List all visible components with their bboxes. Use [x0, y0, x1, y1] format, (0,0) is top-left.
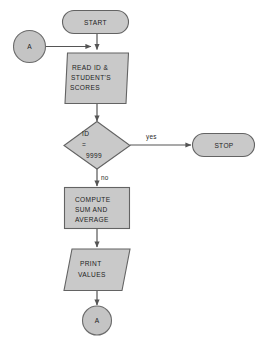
edge-label-no: no: [101, 174, 109, 181]
compute-line-2: SUM AND: [75, 206, 108, 213]
flowchart-canvas: START A READ ID & STUDENT'S SCORES ID = …: [0, 0, 265, 344]
read-input-line-1: READ ID &: [72, 64, 108, 71]
decision-shape: [64, 122, 130, 170]
read-input-line-2: STUDENT'S: [71, 74, 111, 81]
start-label: START: [84, 19, 107, 26]
print-output-line-2: VALUES: [78, 271, 106, 278]
flowchart-diagram: START A READ ID & STUDENT'S SCORES ID = …: [0, 0, 265, 344]
node-connector-a-out[interactable]: A: [83, 306, 112, 335]
read-input-line-3: SCORES: [70, 84, 100, 91]
print-output-shape: [64, 249, 130, 291]
node-print-output[interactable]: PRINT VALUES: [64, 249, 130, 291]
print-output-line-1: PRINT: [80, 260, 102, 267]
connector-a-in-label: A: [27, 43, 32, 50]
decision-line-3: 9999: [86, 152, 102, 159]
node-decision[interactable]: ID = 9999: [64, 122, 130, 170]
compute-line-3: AVERAGE: [75, 216, 109, 223]
edge-label-yes: yes: [146, 133, 157, 141]
node-stop[interactable]: STOP: [193, 134, 255, 157]
stop-label: STOP: [214, 142, 233, 149]
node-read-input[interactable]: READ ID & STUDENT'S SCORES: [65, 53, 129, 104]
node-start[interactable]: START: [63, 11, 129, 34]
compute-line-1: COMPUTE: [75, 196, 111, 203]
decision-line-1: ID: [82, 130, 89, 137]
node-connector-a-in[interactable]: A: [14, 31, 46, 63]
decision-line-2: =: [82, 141, 86, 148]
connector-a-out-label: A: [95, 317, 100, 324]
node-compute[interactable]: COMPUTE SUM AND AVERAGE: [65, 188, 130, 229]
